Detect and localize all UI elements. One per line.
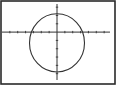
calculator-graph-screen [0, 0, 117, 86]
graph-canvas [0, 0, 117, 86]
